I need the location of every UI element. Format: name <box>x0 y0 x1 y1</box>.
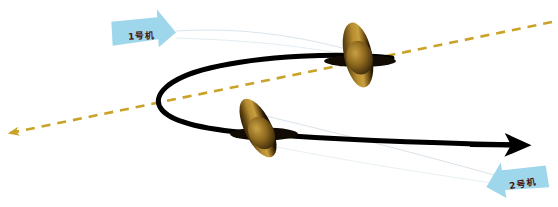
label-1[interactable] <box>111 8 177 49</box>
flight-path-loop <box>158 55 520 145</box>
aircraft-2 <box>216 83 304 170</box>
reference-axis-line <box>10 22 552 133</box>
flight-path <box>158 55 524 145</box>
flight-path-arrow-segment <box>470 144 524 145</box>
diagram-canvas <box>0 0 558 207</box>
leader-line-2-lower <box>252 142 492 183</box>
label-2-banner[interactable] <box>483 156 550 201</box>
reference-axis <box>10 22 552 133</box>
label-1-banner[interactable] <box>111 8 177 49</box>
label-2[interactable] <box>483 156 550 201</box>
leader-line-1 <box>176 30 353 51</box>
